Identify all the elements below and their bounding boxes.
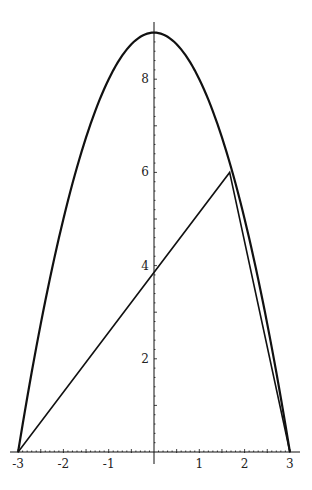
y-tick-label: 6 (141, 165, 149, 179)
y-tick-label: 4 (141, 259, 149, 273)
y-tick-label: 2 (141, 352, 149, 366)
chart: -3-2-11232468 (0, 0, 312, 490)
x-tick-label: 2 (241, 457, 249, 471)
x-tick-label: 3 (286, 457, 294, 471)
x-tick-label: -3 (12, 457, 24, 471)
y-tick-label: 8 (141, 72, 149, 86)
x-tick-label: -1 (103, 457, 115, 471)
x-tick-label: 1 (195, 457, 203, 471)
x-tick-label: -2 (58, 457, 70, 471)
